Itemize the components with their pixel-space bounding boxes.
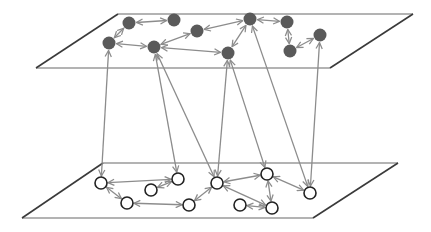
bottom-node-B6 bbox=[211, 177, 223, 189]
edge-B8-B9 bbox=[247, 206, 265, 208]
edge-T7-B1 bbox=[101, 50, 108, 176]
edge-T6-B10 bbox=[310, 42, 319, 186]
top-node-T10 bbox=[284, 45, 297, 58]
edge-T1-T2 bbox=[136, 20, 166, 22]
bottom-node-B4 bbox=[121, 197, 133, 209]
bottom-node-B9 bbox=[266, 202, 278, 214]
edge-B1-B2 bbox=[108, 179, 171, 182]
edge-T10-T6 bbox=[297, 39, 314, 48]
top-node-T5 bbox=[281, 16, 294, 29]
bottom-node-B8 bbox=[234, 199, 246, 211]
edge-T4-T5 bbox=[257, 20, 279, 22]
top-node-T6 bbox=[314, 29, 327, 42]
network-nodes bbox=[95, 13, 327, 215]
edge-B7-B10 bbox=[273, 177, 303, 190]
edge-T9-B7 bbox=[230, 60, 265, 167]
edge-B1-B4 bbox=[107, 187, 122, 198]
plane-top bbox=[36, 14, 413, 68]
edge-B4-B5 bbox=[134, 203, 182, 205]
edge-T8-T3 bbox=[161, 34, 190, 45]
bottom-node-B5 bbox=[183, 199, 195, 211]
edge-T4-T9 bbox=[232, 25, 246, 46]
plane-bottom bbox=[22, 163, 398, 218]
bottom-node-B3 bbox=[145, 184, 157, 196]
bottom-node-B7 bbox=[261, 168, 273, 180]
edge-T5-T10 bbox=[288, 29, 289, 43]
bottom-node-B10 bbox=[304, 187, 316, 199]
edge-T9-B6 bbox=[218, 60, 228, 176]
top-node-T1 bbox=[123, 17, 136, 30]
edge-T3-T4 bbox=[204, 21, 242, 30]
top-node-T4 bbox=[244, 13, 257, 26]
edge-T7-T8 bbox=[116, 44, 146, 47]
edge-B7-B9 bbox=[268, 181, 271, 201]
multilayer-network-diagram bbox=[0, 0, 431, 232]
top-node-T7 bbox=[103, 37, 116, 50]
edge-T1-T7 bbox=[114, 28, 123, 37]
top-node-T8 bbox=[148, 41, 161, 54]
top-node-T3 bbox=[191, 25, 204, 38]
edge-T8-B6 bbox=[157, 54, 214, 177]
plane-right-edge bbox=[313, 163, 398, 218]
edge-B6-B7 bbox=[224, 175, 260, 182]
edge-T4-B10 bbox=[252, 26, 307, 186]
plane-left-edge bbox=[22, 163, 103, 218]
edge-B3-B2 bbox=[157, 182, 171, 188]
bottom-node-B2 bbox=[172, 173, 184, 185]
edge-B5-B6 bbox=[195, 187, 212, 200]
network-canvas bbox=[0, 0, 431, 232]
top-node-T2 bbox=[168, 14, 181, 27]
plane-right-edge bbox=[330, 14, 413, 68]
bottom-node-B1 bbox=[95, 177, 107, 189]
edge-T8-T9 bbox=[161, 48, 220, 53]
top-node-T9 bbox=[222, 47, 235, 60]
